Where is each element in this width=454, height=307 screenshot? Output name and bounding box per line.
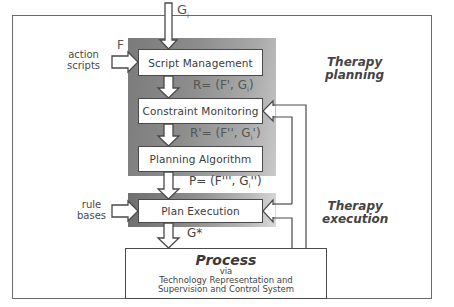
- planning-algorithm-label: Planning Algorithm: [150, 153, 252, 165]
- formula-g-star: G*: [187, 226, 202, 240]
- rule-bases-label: rule bases: [77, 200, 106, 221]
- plan-execution-label: Plan Execution: [161, 205, 240, 217]
- goal-input-label: Gi: [177, 2, 189, 20]
- action-scripts-symbol: F: [117, 38, 124, 52]
- formula-p-close: ''): [250, 174, 261, 188]
- rule-bases-line-2: bases: [77, 211, 106, 222]
- planning-algorithm-box: Planning Algorithm: [138, 146, 263, 172]
- script-management-box: Script Management: [138, 49, 263, 76]
- action-scripts-line-2: scripts: [67, 61, 100, 72]
- therapy-execution-line-2: execution: [322, 213, 388, 226]
- therapy-planning-line-2: planning: [325, 69, 384, 82]
- constraint-monitoring-label: Constraint Monitoring: [142, 105, 258, 117]
- formula-r-prime-close: '): [253, 126, 261, 140]
- formula-p: P= (F''', Gi''): [189, 174, 262, 190]
- constraint-monitoring-box: Constraint Monitoring: [138, 98, 263, 124]
- process-line-2: Supervision and Control System: [158, 285, 294, 294]
- formula-r: R= (F', Gi): [193, 78, 254, 94]
- rule-bases-line-1: rule: [77, 200, 106, 211]
- formula-p-text: P= (F''', G: [189, 174, 249, 188]
- goal-subscript: i: [187, 12, 189, 20]
- therapy-planning-label: Therapy planning: [325, 56, 384, 82]
- formula-r-prime: R'= (F'', Gi'): [190, 126, 261, 142]
- action-scripts-line-1: action: [67, 50, 100, 61]
- plan-execution-box: Plan Execution: [138, 199, 263, 223]
- script-management-label: Script Management: [148, 57, 253, 69]
- formula-r-prime-text: R'= (F'', G: [190, 126, 251, 140]
- process-title: Process: [196, 253, 257, 268]
- process-box: Process via Technology Representation an…: [125, 248, 327, 299]
- goal-symbol: G: [177, 2, 187, 17]
- therapy-execution-label: Therapy execution: [322, 200, 388, 226]
- formula-r-text: R= (F', G: [193, 78, 247, 92]
- formula-r-close: ): [249, 78, 254, 92]
- action-scripts-label: action scripts: [67, 50, 100, 71]
